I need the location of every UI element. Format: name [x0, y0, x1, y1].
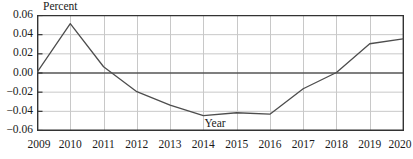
y-axis-tick-label: 0.00 — [13, 67, 33, 79]
x-axis-tick-label: 2010 — [59, 139, 82, 151]
x-axis-tick-label: 2009 — [28, 139, 51, 151]
y-axis-tick-label: 0.04 — [13, 28, 33, 40]
x-axis-tick-label: 2019 — [358, 139, 381, 151]
y-axis-tick-label: 0.02 — [13, 47, 33, 59]
x-axis-tick-label: 2011 — [92, 139, 115, 151]
x-axis-tick-label: 2017 — [292, 139, 315, 151]
x-axis-tick-label: 2015 — [225, 139, 248, 151]
x-axis-tick-label: 2016 — [258, 139, 281, 151]
x-axis-title: Year — [204, 118, 225, 130]
x-axis-tick-label: 2013 — [159, 139, 182, 151]
y-axis-tick-label: 0.06 — [13, 9, 33, 21]
y-axis-tick-label: −0.06 — [6, 124, 33, 136]
x-axis-tick-label: 2012 — [125, 139, 148, 151]
y-axis-tick-label: −0.04 — [6, 105, 33, 117]
x-axis-tick-label: 2014 — [192, 139, 215, 151]
plot-area — [37, 15, 404, 131]
y-axis-tick-label: −0.02 — [6, 86, 33, 98]
y-axis-tick-labels: 0.060.040.020.00−0.02−0.04−0.06 — [0, 0, 33, 159]
y-axis-title: Percent — [43, 1, 77, 13]
data-series-line — [37, 24, 403, 116]
plot-svg — [37, 15, 404, 131]
x-axis-tick-label: 2018 — [325, 139, 348, 151]
line-chart: 0.060.040.020.00−0.02−0.04−0.06 Percent … — [0, 0, 413, 159]
x-axis-tick-label: 2020 — [389, 139, 412, 151]
